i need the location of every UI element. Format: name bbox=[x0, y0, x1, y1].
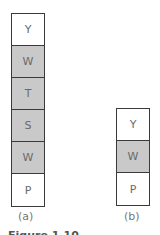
cell-a-3: T bbox=[12, 78, 44, 110]
figure-caption: Figure 1.10 bbox=[8, 229, 79, 235]
cell-a-5: W bbox=[12, 142, 44, 174]
stack-b: Y W P bbox=[116, 108, 150, 206]
stack-a: Y W T S W P bbox=[11, 13, 45, 207]
cell-b-2: W bbox=[117, 141, 149, 173]
cell-a-2: W bbox=[12, 46, 44, 78]
cell-a-6: P bbox=[12, 174, 44, 206]
caption-b: (b) bbox=[124, 210, 140, 223]
cell-a-4: S bbox=[12, 110, 44, 142]
cell-a-1: Y bbox=[12, 14, 44, 46]
cell-b-1: Y bbox=[117, 109, 149, 141]
cell-b-3: P bbox=[117, 173, 149, 205]
caption-a: (a) bbox=[18, 210, 33, 223]
